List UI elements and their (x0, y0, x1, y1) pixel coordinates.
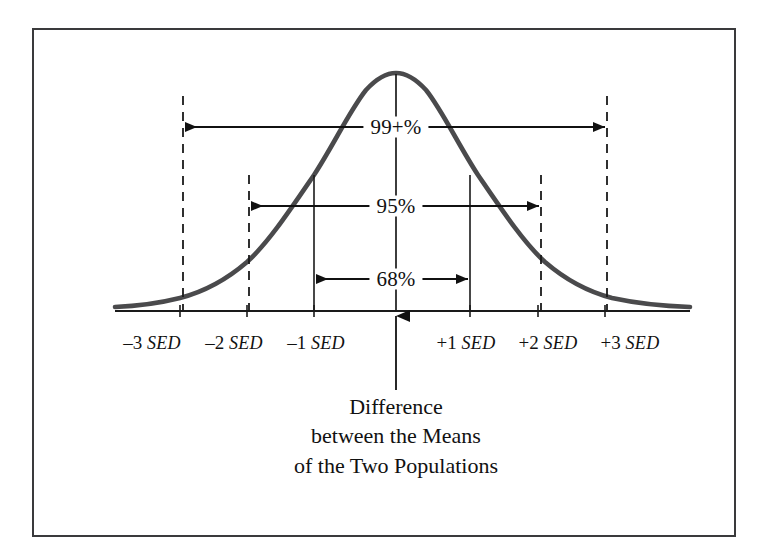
axis-label-plus2-sign: +2 (519, 332, 539, 353)
axis-label-plus2-sed: +2 SED (519, 333, 578, 352)
axis-label-plus3-unit: SED (626, 333, 660, 353)
axis-label-minus3-sed: –3 SED (123, 333, 181, 352)
axis-label-plus3-sign: +3 (601, 332, 621, 353)
axis-label-minus2-sign: –2 (205, 332, 224, 353)
axis-label-minus1-sed: –1 SED (287, 333, 345, 352)
caption-line-2: between the Means (294, 421, 498, 450)
interval-label-95: 95% (369, 196, 422, 217)
interval-label-68: 68% (369, 269, 422, 290)
axis-label-minus3-unit: SED (147, 333, 181, 353)
figure-root: 99+% 95% 68% –3 SED –2 SED –1 SED +1 SED… (0, 0, 766, 555)
axis-label-plus1-sed: +1 SED (437, 333, 496, 352)
axis-label-plus3-sed: +3 SED (601, 333, 660, 352)
caption-line-3: of the Two Populations (294, 451, 498, 480)
interval-label-99: 99+% (363, 117, 428, 138)
axis-label-plus1-sign: +1 (437, 332, 457, 353)
axis-label-plus1-unit: SED (462, 333, 496, 353)
axis-label-minus2-sed: –2 SED (205, 333, 263, 352)
axis-label-minus2-unit: SED (229, 333, 263, 353)
caption-block: Difference between the Means of the Two … (294, 392, 498, 480)
axis-label-plus2-unit: SED (544, 333, 578, 353)
caption-line-1: Difference (294, 392, 498, 421)
axis-label-minus1-sign: –1 (287, 332, 306, 353)
axis-label-minus1-unit: SED (311, 333, 345, 353)
axis-label-minus3-sign: –3 (123, 332, 142, 353)
